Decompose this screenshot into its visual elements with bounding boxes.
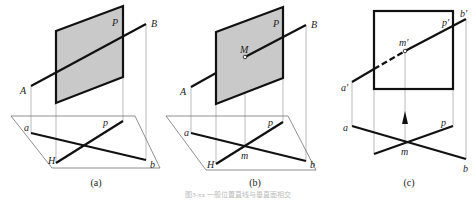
- label-p: p: [267, 117, 273, 128]
- line-ab-prime-visible-left: [352, 69, 374, 82]
- label-m-prime: m′: [399, 37, 409, 48]
- line-ab-prime-hidden: [374, 51, 405, 69]
- caption-b: (b): [249, 177, 261, 189]
- label-plane-p: P: [111, 17, 118, 28]
- label-a: a: [24, 122, 29, 133]
- label-M: M: [239, 44, 249, 55]
- line-ab-prime-visible-right: [405, 19, 466, 51]
- label-p: p: [102, 117, 108, 128]
- h-plane: [166, 116, 316, 170]
- line-ab-segment-am: [191, 73, 216, 87]
- figure-caption: 图3-xx 一般位置直线与垂直面相交: [185, 190, 291, 199]
- h-plane: [11, 116, 160, 168]
- panel-a: P B A a p H b (a): [11, 6, 160, 189]
- label-b-prime: b′: [460, 8, 468, 19]
- label-B: B: [311, 19, 317, 30]
- label-b: b: [150, 159, 155, 170]
- label-A: A: [19, 85, 27, 96]
- diagram-canvas: P B A a p H b (a) P B M A a p m H b (b): [0, 0, 476, 200]
- label-B: B: [151, 18, 157, 29]
- arrow-up-icon: [402, 111, 408, 124]
- panel-c: b′ p′ m′ a′ a p m b (c): [341, 8, 468, 189]
- label-a: a: [184, 127, 189, 138]
- label-p-prime: p′: [441, 17, 450, 28]
- label-H: H: [47, 155, 56, 166]
- label-p: p: [440, 117, 446, 128]
- label-plane-p: P: [272, 18, 279, 29]
- label-b: b: [463, 163, 468, 174]
- line-ab-projection: [191, 133, 306, 161]
- plane-trace-hp: [216, 122, 283, 164]
- label-m: m: [241, 150, 248, 161]
- label-m: m: [401, 146, 408, 157]
- caption-c: (c): [403, 177, 414, 189]
- label-a-prime: a′: [341, 82, 349, 93]
- caption-a: (a): [90, 177, 101, 189]
- label-b: b: [310, 159, 315, 170]
- label-a: a: [343, 122, 348, 133]
- panel-b: P B M A a p m H b (b): [166, 7, 317, 189]
- point-m-prime: [403, 49, 407, 53]
- label-H: H: [206, 159, 215, 170]
- point-M: [243, 55, 247, 59]
- plane-trace-h: [374, 126, 453, 154]
- label-A: A: [179, 86, 187, 97]
